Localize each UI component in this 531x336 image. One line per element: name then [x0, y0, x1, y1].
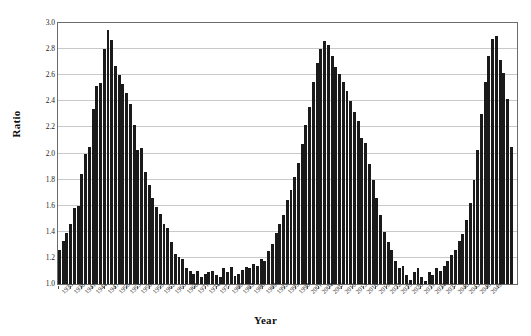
bar [263, 261, 266, 284]
bar [364, 143, 367, 284]
bar [353, 112, 356, 284]
y-tick-label: 1.2 [9, 252, 55, 261]
x-tick-mark [262, 286, 263, 289]
x-tick-mark [70, 286, 71, 289]
x-tick-mark [363, 286, 364, 289]
bar [319, 49, 322, 284]
bar [174, 254, 177, 284]
bar [290, 190, 293, 284]
bar [461, 234, 464, 284]
y-tick-label: 2.8 [9, 44, 55, 53]
bar [480, 114, 483, 284]
bar [107, 30, 110, 284]
bar [327, 45, 330, 284]
bar [69, 224, 72, 284]
bar [473, 180, 476, 284]
bar [133, 125, 136, 284]
x-tick-mark [352, 286, 353, 289]
bar [99, 83, 102, 284]
bar [372, 180, 375, 284]
bar [402, 266, 405, 284]
y-axis-tick-labels: 3.02.82.62.42.22.01.81.61.41.21.0 [0, 0, 55, 336]
bar-series [58, 23, 517, 284]
x-tick-mark [58, 286, 59, 289]
y-tick-label: 2.2 [9, 122, 55, 131]
bar [136, 150, 139, 284]
y-tick-label: 2.0 [9, 148, 55, 157]
bar [469, 203, 472, 284]
x-tick-mark [329, 286, 330, 289]
bar [170, 242, 173, 284]
bar [185, 268, 188, 284]
bar [499, 60, 502, 284]
x-axis-title: Year [0, 314, 531, 326]
x-tick-mark [194, 286, 195, 289]
x-tick-mark [341, 286, 342, 289]
bar [510, 147, 513, 284]
bar [502, 73, 505, 284]
x-axis-tick-labels: 1935193819411944194719501953195619591962… [57, 286, 518, 314]
bar [88, 147, 91, 284]
bar [390, 250, 393, 284]
bar [155, 207, 158, 284]
bar [241, 270, 244, 284]
y-tick-label: 2.6 [9, 70, 55, 79]
bar [446, 261, 449, 284]
x-tick-mark [126, 286, 127, 289]
bar [84, 154, 87, 285]
bar [178, 257, 181, 284]
bar [413, 272, 416, 284]
bar [331, 56, 334, 284]
bar [312, 82, 315, 284]
bar [383, 232, 386, 284]
x-tick-mark [318, 286, 319, 289]
y-tick-label: 3.0 [9, 18, 55, 27]
bar [166, 228, 169, 284]
bar [379, 215, 382, 284]
x-tick-mark [487, 286, 488, 289]
bar [256, 266, 259, 284]
bar [245, 267, 248, 284]
bar [491, 39, 494, 284]
y-tick-label: 2.4 [9, 96, 55, 105]
bar [196, 271, 199, 284]
bar [297, 163, 300, 284]
bar [304, 125, 307, 284]
bar [271, 244, 274, 284]
bar [230, 267, 233, 284]
x-tick-mark [442, 286, 443, 289]
bar [346, 91, 349, 284]
x-tick-mark [476, 286, 477, 289]
x-tick-mark [205, 286, 206, 289]
y-tick-label: 1.8 [9, 174, 55, 183]
bar [275, 233, 278, 284]
bar [387, 242, 390, 284]
bar [95, 86, 98, 284]
bar [207, 272, 210, 284]
x-tick-mark [81, 286, 82, 289]
x-tick-mark [92, 286, 93, 289]
bar [487, 56, 490, 284]
x-tick-mark [397, 286, 398, 289]
x-tick-mark [284, 286, 285, 289]
bar [144, 172, 147, 284]
bar [323, 41, 326, 284]
x-tick-mark [250, 286, 251, 289]
y-tick-label: 1.6 [9, 200, 55, 209]
bar [435, 268, 438, 284]
bar [375, 198, 378, 284]
bar [293, 177, 296, 284]
bar [357, 121, 360, 284]
bar [360, 138, 363, 284]
bar [349, 101, 352, 284]
bar [495, 36, 498, 284]
bar [454, 250, 457, 284]
x-tick-mark [307, 286, 308, 289]
bar [338, 74, 341, 284]
bar [140, 148, 143, 284]
x-tick-mark [386, 286, 387, 289]
bar [368, 164, 371, 284]
bar [110, 40, 113, 284]
bar [506, 99, 509, 284]
x-tick-mark [183, 286, 184, 289]
